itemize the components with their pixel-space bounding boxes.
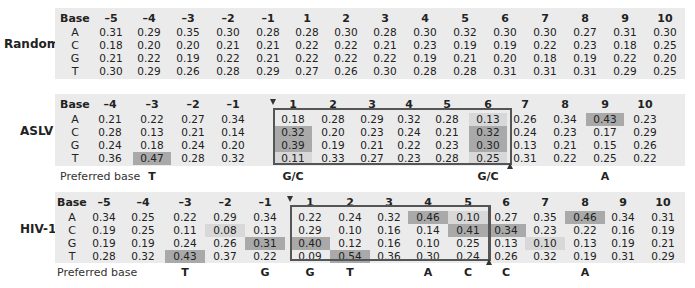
random-position-header: –4	[130, 12, 168, 25]
aslv-cell: 0.34	[214, 113, 252, 126]
random-cell: 0.27	[288, 65, 326, 78]
random-cell: 0.19	[566, 52, 604, 65]
aslv-position-header: –1	[214, 98, 252, 111]
aslv-cell: 0.20	[214, 139, 252, 152]
random-cell: 0.26	[169, 65, 207, 78]
hiv1-base-header: Base	[57, 196, 87, 209]
random-cell: 0.23	[406, 39, 444, 52]
random-cell: 0.29	[249, 65, 287, 78]
random-cell: 0.30	[486, 26, 524, 39]
hiv1-preferred-base: T	[332, 266, 368, 279]
random-position-header: 5	[446, 12, 484, 25]
hiv1-cell: 0.08	[205, 224, 245, 237]
hiv1-position-header: 7	[526, 196, 564, 209]
random-cell: 0.19	[446, 39, 484, 52]
aslv-cell: 0.14	[214, 126, 252, 139]
random-cell: 0.30	[92, 65, 130, 78]
hiv1-preferred-base: A	[410, 266, 446, 279]
random-cell: 0.21	[249, 52, 287, 65]
random-position-header: 10	[646, 12, 684, 25]
random-cell: 0.18	[92, 39, 130, 52]
aslv-cell: 0.36	[91, 152, 129, 165]
aslv-position-header: 8	[546, 98, 584, 111]
hiv1-cell: 0.16	[604, 224, 642, 237]
aslv-cell: 0.18	[133, 139, 171, 152]
hiv1-position-header: 9	[604, 196, 642, 209]
random-cell: 0.20	[486, 52, 524, 65]
aslv-cell: 0.17	[586, 126, 624, 139]
random-cell: 0.22	[130, 52, 168, 65]
aslv-preferred-base: T	[134, 170, 170, 183]
aslv-base-label: T	[68, 152, 82, 165]
hiv1-cell: 0.19	[644, 224, 682, 237]
hiv1-cell: 0.28	[85, 250, 123, 263]
aslv-start-marker-icon	[270, 99, 276, 105]
hiv1-preferred-base: G	[247, 266, 283, 279]
hiv1-position-header: –3	[166, 196, 204, 209]
aslv-cell: 0.13	[133, 126, 171, 139]
random-cell: 0.21	[249, 39, 287, 52]
hiv1-end-line	[489, 205, 491, 261]
random-cell: 0.22	[366, 52, 404, 65]
aslv-end-line	[510, 108, 512, 165]
random-cell: 0.19	[486, 39, 524, 52]
random-position-header: 1	[288, 12, 326, 25]
aslv-cell: 0.22	[546, 152, 584, 165]
random-cell: 0.28	[446, 65, 484, 78]
random-cell: 0.28	[288, 26, 326, 39]
aslv-cell: 0.34	[546, 113, 584, 126]
random-cell: 0.22	[288, 52, 326, 65]
random-cell: 0.28	[249, 26, 287, 39]
hiv1-cell: 0.32	[124, 250, 162, 263]
random-position-header: 7	[526, 12, 564, 25]
hiv1-cell: 0.29	[644, 250, 682, 263]
hiv1-preferred-base: G	[292, 266, 328, 279]
hiv1-cell: 0.22	[166, 211, 204, 224]
aslv-cell: 0.21	[546, 139, 584, 152]
random-cell: 0.25	[646, 65, 684, 78]
hiv1-cell: 0.27	[487, 211, 525, 224]
random-base-label: T	[68, 65, 82, 78]
panel-label-random: Random	[4, 37, 59, 51]
random-cell: 0.20	[646, 52, 684, 65]
aslv-preferred-label: Preferred base	[60, 170, 140, 183]
hiv1-preferred-base: A	[567, 266, 603, 279]
random-cell: 0.21	[446, 52, 484, 65]
aslv-cell: 0.23	[626, 113, 664, 126]
random-position-header: –3	[169, 12, 207, 25]
random-cell: 0.26	[327, 65, 365, 78]
hiv1-position-header: 6	[487, 196, 525, 209]
hiv1-cell: 0.26	[206, 237, 244, 250]
random-cell: 0.29	[130, 26, 168, 39]
hiv1-cell: 0.19	[566, 250, 604, 263]
hiv1-cell: 0.35	[526, 211, 564, 224]
random-position-header: 8	[566, 12, 604, 25]
random-position-header: 6	[486, 12, 524, 25]
aslv-cell: 0.23	[546, 126, 584, 139]
aslv-position-header: 9	[586, 98, 624, 111]
hiv1-cell: 0.13	[487, 237, 525, 250]
random-cell: 0.21	[92, 52, 130, 65]
random-cell: 0.22	[209, 52, 247, 65]
random-cell: 0.30	[526, 26, 564, 39]
random-base-label: C	[68, 39, 82, 52]
hiv1-cell: 0.11	[166, 224, 204, 237]
hiv1-cell: 0.34	[486, 224, 526, 237]
hiv1-cell: 0.19	[604, 237, 642, 250]
aslv-cell: 0.24	[91, 139, 129, 152]
random-base-label: G	[68, 52, 82, 65]
random-position-header: 9	[606, 12, 644, 25]
random-cell: 0.31	[606, 26, 644, 39]
aslv-position-header: 10	[626, 98, 664, 111]
hiv1-cell: 0.32	[526, 250, 564, 263]
aslv-cell: 0.27	[174, 113, 212, 126]
random-cell: 0.22	[327, 39, 365, 52]
random-cell: 0.19	[169, 52, 207, 65]
random-position-header: 4	[406, 12, 444, 25]
hiv1-position-header: –4	[124, 196, 162, 209]
random-cell: 0.31	[92, 26, 130, 39]
random-cell: 0.20	[169, 39, 207, 52]
hiv1-cell: 0.10	[525, 237, 565, 250]
random-position-header: –2	[209, 12, 247, 25]
hiv1-preferred-label: Preferred base	[57, 266, 137, 279]
